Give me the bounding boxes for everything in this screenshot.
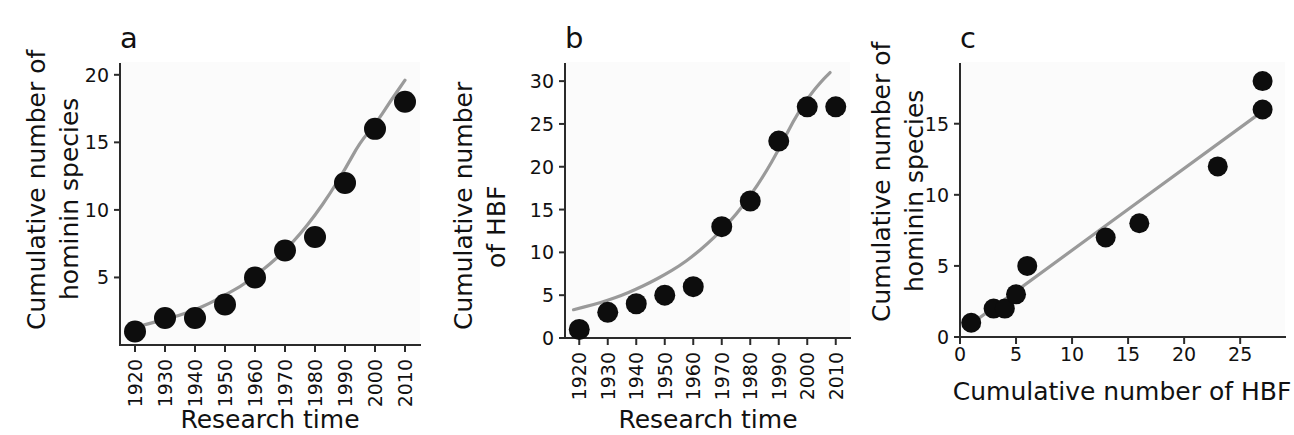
figure-container: a 5101520 192019301940195019601970198019…: [0, 0, 1294, 435]
y-tick-label: 5: [542, 284, 554, 306]
panel-b-x-ticks: 1920193019401950196019701980199020002010: [568, 338, 847, 400]
y-tick-label: 10: [85, 199, 109, 221]
data-point-marker: [797, 96, 818, 117]
panel-a-ylabel-line-1: Cumulative number of: [22, 49, 51, 330]
panel-a-ylabel-line-2: hominin species: [55, 98, 84, 300]
x-tick-label: 1940: [184, 359, 206, 407]
data-point-marker: [1253, 100, 1273, 120]
x-tick-label: 2000: [796, 352, 818, 400]
x-tick-label: 1990: [768, 352, 790, 400]
data-point-marker: [711, 216, 732, 237]
x-tick-label: 10: [1060, 343, 1084, 365]
data-point-marker: [184, 307, 206, 329]
data-point-marker: [244, 266, 266, 288]
x-tick-label: 1940: [625, 352, 647, 400]
data-point-marker: [683, 276, 704, 297]
x-tick-label: 1970: [711, 352, 733, 400]
panel-b-ylabel-line-1: Cumulative number: [449, 81, 478, 330]
data-point-marker: [214, 293, 236, 315]
x-tick-label: 2010: [394, 359, 416, 407]
y-tick-label: 20: [85, 64, 109, 86]
x-tick-label: 1970: [274, 359, 296, 407]
chart-panel-c: c 051015 0510152025 Cumulative number of…: [860, 0, 1294, 435]
x-tick-label: 1930: [154, 359, 176, 407]
data-point-marker: [1253, 71, 1273, 91]
panel-c-xlabel: Cumulative number of HBF: [953, 377, 1292, 406]
x-tick-label: 1990: [334, 359, 356, 407]
panel-c-svg: c 051015 0510152025 Cumulative number of…: [860, 0, 1294, 435]
panel-b-xlabel: Research time: [618, 405, 797, 434]
panel-b-y-ticks: 051015202530: [530, 70, 565, 349]
panel-b-letter: b: [565, 21, 583, 55]
data-point-marker: [304, 226, 326, 248]
y-tick-label: 10: [530, 241, 554, 263]
panel-b-svg: b 051015202530 1920193019401950196019701…: [430, 0, 870, 435]
x-tick-label: 5: [1010, 343, 1022, 365]
data-point-marker: [825, 96, 846, 117]
data-point-marker: [1006, 284, 1026, 304]
panel-c-ylabel-line-1: Cumulative number of: [867, 41, 896, 322]
data-point-marker: [154, 307, 176, 329]
y-tick-label: 5: [937, 255, 949, 277]
x-tick-label: 1930: [597, 352, 619, 400]
x-tick-label: 1960: [682, 352, 704, 400]
y-tick-label: 0: [542, 327, 554, 349]
x-tick-label: 2010: [825, 352, 847, 400]
panel-a-x-ticks: 1920193019401950196019701980199020002010: [124, 345, 416, 407]
data-point-marker: [334, 172, 356, 194]
data-point-marker: [654, 285, 675, 306]
x-tick-label: 1920: [568, 352, 590, 400]
panel-c-x-ticks: 0510152025: [954, 337, 1252, 365]
x-tick-label: 1980: [304, 359, 326, 407]
data-point-marker: [1129, 213, 1149, 233]
data-point-marker: [740, 191, 761, 212]
x-tick-label: 1980: [739, 352, 761, 400]
x-tick-label: 20: [1172, 343, 1196, 365]
panel-a-plot-background: [120, 62, 420, 345]
data-point-marker: [961, 313, 981, 333]
x-tick-label: 15: [1116, 343, 1140, 365]
chart-panel-b: b 051015202530 1920193019401950196019701…: [430, 0, 870, 435]
y-tick-label: 15: [85, 131, 109, 153]
x-tick-label: 1920: [124, 359, 146, 407]
panel-a-letter: a: [120, 21, 138, 55]
y-tick-label: 0: [937, 326, 949, 348]
panel-b-ylabel-line-2: of HBF: [482, 186, 511, 268]
data-point-marker: [394, 91, 416, 113]
panel-a-xlabel: Research time: [180, 405, 359, 434]
x-tick-label: 1950: [654, 352, 676, 400]
data-point-marker: [569, 319, 590, 340]
data-point-marker: [274, 239, 296, 261]
chart-panel-a: a 5101520 192019301940195019601970198019…: [0, 0, 440, 435]
data-point-marker: [1208, 156, 1228, 176]
y-tick-label: 25: [530, 113, 554, 135]
panel-a-y-axis-title: Cumulative number of hominin species: [22, 49, 84, 330]
data-point-marker: [1017, 256, 1037, 276]
data-point-marker: [364, 118, 386, 140]
x-tick-label: 0: [954, 343, 966, 365]
x-tick-label: 2000: [364, 359, 386, 407]
x-tick-label: 1960: [244, 359, 266, 407]
x-tick-label: 1950: [214, 359, 236, 407]
data-point-marker: [124, 320, 146, 342]
y-tick-label: 5: [97, 266, 109, 288]
data-point-marker: [597, 302, 618, 323]
panel-c-y-ticks: 051015: [925, 113, 960, 348]
data-point-marker: [626, 293, 647, 314]
x-tick-label: 25: [1228, 343, 1252, 365]
panel-c-letter: c: [960, 21, 976, 55]
y-tick-label: 15: [530, 199, 554, 221]
panel-b-y-axis-title: Cumulative number of HBF: [449, 81, 511, 330]
panel-a-svg: a 5101520 192019301940195019601970198019…: [0, 0, 440, 435]
panel-c-ylabel-line-2: hominin species: [900, 90, 929, 292]
data-point-marker: [768, 131, 789, 152]
y-tick-label: 30: [530, 70, 554, 92]
y-tick-label: 20: [530, 156, 554, 178]
data-point-marker: [1096, 227, 1116, 247]
panel-a-y-ticks: 5101520: [85, 64, 120, 289]
panel-c-y-axis-title: Cumulative number of hominin species: [867, 41, 929, 322]
